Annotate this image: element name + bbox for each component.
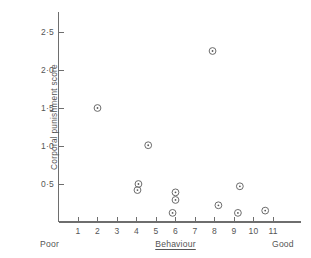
plot-canvas [0,0,311,258]
data-point-center-dot [175,191,177,193]
x-tick-label: 8 [212,226,217,236]
data-point-center-dot [147,144,149,146]
axes-group [59,12,302,222]
data-point-center-dot [137,189,139,191]
y-tick-marks [59,32,64,184]
x-axis-title: Behaviour [155,239,196,249]
data-point-center-dot [172,212,174,214]
x-tick-label: 3 [115,226,120,236]
data-point-center-dot [138,183,140,185]
x-tick-label: 2 [95,226,100,236]
x-tick-label: 6 [173,226,178,236]
data-point-center-dot [239,185,241,187]
data-point-markers [94,48,269,217]
x-tick-marks [78,217,273,222]
y-tick-label: 0·5 [28,179,54,189]
x-axis-low-end-label: Poor [40,239,59,249]
x-tick-label: 1 [76,226,81,236]
y-axis-title: Corporal punishment score [49,64,59,170]
x-tick-label: 11 [268,226,277,236]
data-point-center-dot [212,50,214,52]
data-point-center-dot [97,107,99,109]
x-axis-high-end-label: Good [272,239,294,249]
x-tick-label: 9 [232,226,237,236]
x-tick-label: 4 [134,226,139,236]
y-tick-label: 2·5 [28,27,54,37]
data-point-center-dot [218,204,220,206]
data-point-center-dot [237,212,239,214]
scatter-plot-figure: 0·51·01·52·02·5 1234567891011 Corporal p… [0,0,311,258]
data-point-center-dot [175,199,177,201]
data-point-center-dot [264,210,266,212]
x-tick-label: 7 [193,226,198,236]
x-tick-label: 10 [249,226,259,236]
x-tick-label: 5 [154,226,159,236]
